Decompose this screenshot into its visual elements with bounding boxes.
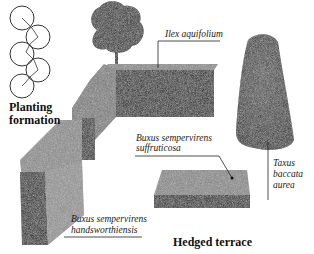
label-taxus-2: baccata — [273, 169, 303, 179]
buxus-slab — [154, 170, 250, 208]
tree-illustration — [91, 1, 143, 70]
label-buxus-handsworthiensis-1: Buxus sempervirens — [71, 214, 147, 224]
label-taxus-1: Taxus — [273, 158, 295, 168]
label-buxus-suffruticosa-1: Buxus sempervirens — [136, 133, 212, 143]
hedged-terrace-diagram: Ilex aquifolium Buxus sempervirens suffr… — [0, 0, 314, 254]
back-hedge — [104, 64, 218, 117]
taxus-illustration — [236, 34, 294, 150]
label-buxus-suffruticosa-2: suffruticosa — [136, 143, 181, 153]
label-taxus-3: aurea — [273, 180, 295, 190]
planting-formation-icon — [10, 6, 50, 98]
diagram-title: Hedged terrace — [173, 236, 252, 249]
illustration — [0, 0, 314, 254]
label-buxus-handsworthiensis-2: handsworthiensis — [71, 225, 138, 235]
planting-heading-2: formation — [9, 114, 60, 127]
label-ilex-aquifolium: Ilex aquifolium — [165, 29, 223, 39]
